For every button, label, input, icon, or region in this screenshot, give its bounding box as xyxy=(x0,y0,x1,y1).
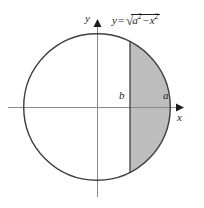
y-axis-label: y xyxy=(85,13,90,24)
circle-diagram-svg xyxy=(0,0,204,208)
equation-radical: √a2−x2 xyxy=(125,14,160,27)
lower-bound-label-b: b xyxy=(119,90,125,101)
equation-term2-exponent: 2 xyxy=(155,12,159,21)
figure-container: y x a b y=√a2−x2 xyxy=(0,0,204,208)
radical-contents: a2−x2 xyxy=(131,14,160,26)
equation-minus-sign: − xyxy=(141,14,149,26)
curve-equation-label: y=√a2−x2 xyxy=(112,14,160,27)
x-axis-label: x xyxy=(177,112,182,123)
y-axis-arrowhead xyxy=(94,19,102,27)
equation-equals-sign: = xyxy=(117,14,125,26)
upper-bound-label-a: a xyxy=(163,90,169,101)
